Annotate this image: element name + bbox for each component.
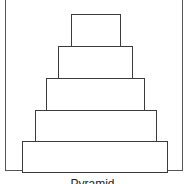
pyramid-tier-4 [35,110,157,142]
pyramid-tier-5 [22,141,168,173]
pyramid-tier-1 [71,14,121,47]
pyramid-tier-3 [46,78,145,111]
pyramid-tier-2 [58,46,133,79]
diagram-caption: Pyramid [0,177,185,184]
